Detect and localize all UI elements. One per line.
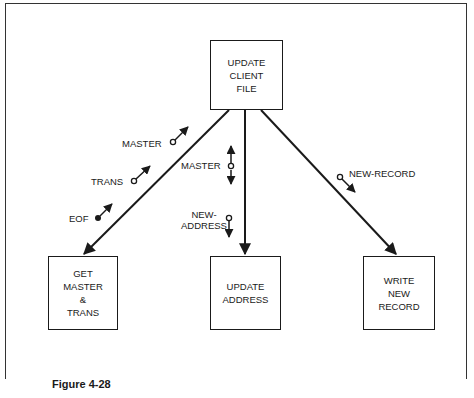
couple-new-address-icon xyxy=(226,215,231,237)
couple-label-eof: EOF xyxy=(69,213,89,224)
couple-eof-flag-icon xyxy=(95,204,112,221)
couple-master-left-icon xyxy=(170,127,188,145)
module-write-new-record: WRITE NEW RECORD xyxy=(363,256,435,330)
module-update-address: UPDATE ADDRESS xyxy=(210,256,281,330)
couple-label-master-middle: MASTER xyxy=(181,160,221,171)
couple-trans-left-icon xyxy=(131,166,150,184)
couple-label-new-address: NEW- ADDRESS xyxy=(181,209,227,231)
couple-label-new-record: NEW-RECORD xyxy=(349,168,415,179)
call-line-right xyxy=(261,110,396,254)
couple-label-trans: TRANS xyxy=(91,176,123,187)
couple-label-master-left: MASTER xyxy=(122,138,162,149)
module-get-master-trans: GET MASTER & TRANS xyxy=(48,256,118,330)
figure-caption: Figure 4-28 xyxy=(48,378,115,390)
couple-master-middle-icon xyxy=(228,146,233,184)
module-update-client-file: UPDATE CLIENT FILE xyxy=(210,40,283,110)
